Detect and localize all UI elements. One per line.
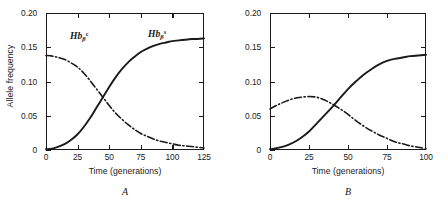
x-tick-labels-a: 0 25 50 75 100 125 bbox=[46, 152, 204, 166]
y-tick-a-3: 0.15 bbox=[21, 42, 42, 52]
curve-hb-beta-s-b bbox=[270, 55, 426, 150]
x-tick-a-5: 125 bbox=[197, 152, 211, 162]
x-tick-b-1: 25 bbox=[304, 152, 313, 162]
y-tick-labels-b: 0 0.05 0.10 0.15 0.20 bbox=[224, 13, 266, 150]
panel-caption-b: B bbox=[270, 186, 426, 197]
panel-a: Allele frequency 0 0.05 0.10 0.15 0.20 bbox=[0, 0, 224, 215]
curve-hb-beta-c-b bbox=[270, 97, 426, 149]
y-tick-a-1: 0.05 bbox=[21, 111, 42, 121]
x-tick-a-3: 75 bbox=[136, 152, 145, 162]
y-tick-a-4: 0.20 bbox=[21, 8, 42, 18]
y-tick-b-0: 0 bbox=[256, 145, 266, 155]
curve-label-hb-beta-s-a: Hbβs bbox=[148, 28, 166, 40]
ytick-mark-b-0 bbox=[270, 150, 275, 151]
y-tick-labels-a: 0 0.05 0.10 0.15 0.20 bbox=[0, 13, 42, 150]
allele-frequency-figure: Allele frequency 0 0.05 0.10 0.15 0.20 bbox=[0, 0, 448, 215]
y-tick-b-1: 0.05 bbox=[245, 111, 266, 121]
x-tick-labels-b: 0 25 50 75 100 bbox=[270, 152, 426, 166]
x-axis-title-a: Time (generations) bbox=[46, 166, 204, 176]
x-tick-a-0: 0 bbox=[44, 152, 49, 162]
y-tick-a-0: 0 bbox=[32, 145, 42, 155]
x-tick-b-4: 100 bbox=[419, 152, 433, 162]
y-tick-a-2: 0.10 bbox=[21, 77, 42, 87]
x-tick-b-2: 50 bbox=[343, 152, 352, 162]
panel-b: 0 0.05 0.10 0.15 0.20 bbox=[224, 0, 448, 215]
x-tick-b-3: 75 bbox=[382, 152, 391, 162]
x-tick-a-1: 25 bbox=[73, 152, 82, 162]
curve-hb-beta-s-a bbox=[46, 38, 204, 149]
plot-area-b bbox=[270, 13, 426, 150]
panel-caption-a: A bbox=[46, 186, 204, 197]
curve-canvas-b bbox=[270, 13, 426, 150]
x-tick-a-4: 100 bbox=[166, 152, 180, 162]
curve-hb-beta-c-a bbox=[46, 55, 204, 147]
x-axis-title-b: Time (generations) bbox=[270, 166, 426, 176]
x-tick-b-0: 0 bbox=[268, 152, 273, 162]
y-tick-b-2: 0.10 bbox=[245, 77, 266, 87]
x-tick-a-2: 50 bbox=[105, 152, 114, 162]
curve-label-hb-beta-c-a: Hbβc bbox=[70, 30, 88, 42]
y-tick-b-4: 0.20 bbox=[245, 8, 266, 18]
y-tick-b-3: 0.15 bbox=[245, 42, 266, 52]
